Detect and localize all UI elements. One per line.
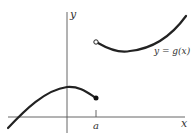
y-axis-label: y [69,8,77,21]
open-circle [94,40,98,44]
function-label: y = g(x) [153,46,191,56]
x-axis-label: x [181,117,188,130]
curve-lower-branch [8,87,96,128]
filled-dot [94,96,99,101]
tick-label-a: a [93,120,99,131]
function-graph: y x a y = g(x) [0,0,196,140]
